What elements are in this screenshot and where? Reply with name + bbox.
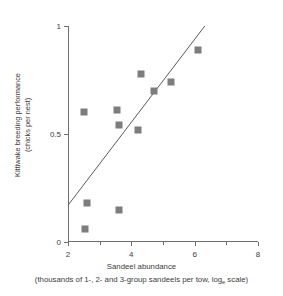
data-point [84,200,91,207]
x-axis-subtitle: (thousands of 1-, 2- and 3-group sandeel… [0,275,283,284]
x-tick: 4 [131,242,132,246]
x-axis-subtitle-pre: (thousands of 1-, 2- and 3-group sandeel… [35,275,222,284]
data-point [194,46,201,53]
x-tick: 8 [258,242,259,246]
y-axis-title: Kittiwake breeding performance (chicks p… [0,0,46,250]
x-axis-subtitle-post: scale) [225,275,248,284]
kittiwake-sandeel-scatter-figure: Kittiwake breeding performance (chicks p… [0,0,283,296]
data-point [80,109,87,116]
x-tick-label: 4 [129,250,133,259]
data-point [82,226,89,233]
data-point [134,126,141,133]
x-axis-subtitle-subscript: e [222,279,225,285]
x-tick: 2 [68,242,69,246]
y-axis-title-line1: Kittiwake breeding performance [13,73,22,177]
data-point [115,206,122,213]
x-tick-minor [163,242,164,245]
x-axis-title: Sandeel abundance [0,262,283,271]
data-point [114,107,121,114]
y-tick-label: 1 [57,22,61,31]
x-tick: 6 [195,242,196,246]
x-tick-label: 8 [256,250,260,259]
data-point [115,122,122,129]
plot-area: 00.51 2468 [68,26,258,242]
y-tick-label: 0 [57,238,61,247]
data-point [150,87,157,94]
x-tick-label: 6 [192,250,196,259]
x-tick-label: 2 [66,250,70,259]
y-tick-label: 0.5 [50,130,61,139]
x-tick-minor [100,242,101,245]
y-axis-title-line2: (chicks per nest) [23,73,33,177]
regression-line [68,26,258,242]
data-point [137,70,144,77]
x-tick-minor [226,242,227,245]
data-point [167,79,174,86]
